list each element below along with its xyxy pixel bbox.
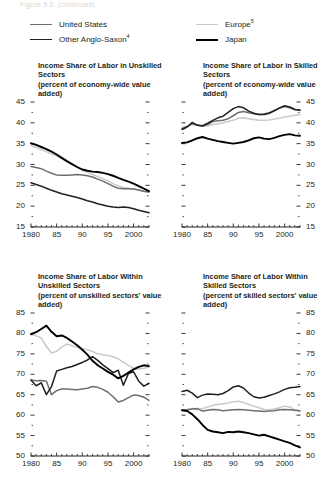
legend-swatch-other-anglo-saxon: [30, 39, 52, 40]
y-axis-tick-label: 65: [306, 391, 321, 399]
x-axis-tick-label: 1980: [18, 231, 44, 239]
y-axis-tick-label: 85: [306, 309, 321, 317]
legend-footnote-marker-5: 5: [251, 18, 254, 24]
y-axis-tick-label: 25: [10, 181, 25, 189]
x-axis-tick-label: 85: [195, 460, 221, 468]
legend-label-europe: Europe5: [225, 20, 254, 29]
panel-subtitle: (percent of economy-wide value added): [203, 80, 329, 98]
legend-swatch-europe: [196, 24, 218, 25]
legend-label-united-states: United States: [59, 20, 107, 29]
y-axis-tick-label: 80: [306, 329, 321, 337]
y-axis-tick-label: 50: [306, 452, 321, 460]
series-line-europe: [31, 146, 149, 192]
y-axis-tick-label: 55: [306, 432, 321, 440]
legend-item-europe: Europe5: [196, 20, 254, 29]
legend-swatch-japan: [196, 39, 218, 41]
x-axis-tick-label: 95: [95, 460, 121, 468]
y-axis-tick-label: 35: [10, 140, 25, 148]
series-line-japan: [182, 410, 300, 447]
x-axis-tick-label: 90: [220, 460, 246, 468]
x-axis-tick-label: 1980: [169, 231, 195, 239]
y-axis-tick-label: 80: [10, 329, 25, 337]
legend-footnote-marker-4: 4: [127, 33, 130, 39]
series-line-japan: [31, 143, 149, 191]
x-axis-tick-label: 90: [69, 460, 95, 468]
x-axis-tick-label: 95: [246, 460, 272, 468]
panel-bottom-left: Income Share of Labor Within Unskilled S…: [0, 268, 166, 483]
panel-top-right: Income Share of Labor in Skilled Sectors…: [165, 57, 331, 262]
legend-label-other-anglo-saxon: Other Anglo-Saxon4: [59, 35, 130, 44]
figure-container: Figure 5.8. (continued) United States Ot…: [0, 0, 331, 485]
x-axis-tick-label: 95: [246, 231, 272, 239]
x-axis-tick-label: 2000: [121, 460, 147, 468]
chart-legend: United States Other Anglo-Saxon4 Europe5…: [0, 18, 331, 52]
y-axis-tick-label: 40: [306, 119, 321, 127]
series-line-united-states: [182, 409, 300, 412]
figure-caption-cropped: Figure 5.8. (continued): [20, 1, 220, 10]
y-axis-tick-label: 15: [306, 223, 321, 231]
x-axis-tick-label: 85: [44, 231, 70, 239]
legend-label-japan: Japan: [225, 35, 247, 44]
y-axis-tick-label: 70: [10, 370, 25, 378]
legend-item-other-anglo-saxon: Other Anglo-Saxon4: [30, 35, 130, 44]
y-axis-tick-label: 45: [306, 98, 321, 106]
panel-title: Income Share of Labor in Skilled Sectors: [203, 61, 327, 79]
x-axis-tick-label: 1980: [18, 460, 44, 468]
y-axis-tick-label: 40: [10, 119, 25, 127]
plot-area-top-right: [182, 102, 300, 227]
legend-item-united-states: United States: [30, 20, 107, 29]
x-axis-tick-label: 90: [220, 231, 246, 239]
panel-subtitle: (percent of economy-wide value added): [38, 80, 164, 98]
y-axis-tick-label: 70: [306, 370, 321, 378]
panel-subtitle: (percent of skilled sectors' value added…: [203, 291, 329, 309]
panel-top-left: Income Share of Labor in Unskilled Secto…: [0, 57, 166, 262]
series-line-japan: [182, 134, 300, 144]
y-axis-tick-label: 45: [10, 98, 25, 106]
y-axis-tick-label: 65: [10, 391, 25, 399]
y-axis-tick-label: 75: [10, 350, 25, 358]
legend-swatch-united-states: [30, 24, 52, 25]
y-axis-tick-label: 20: [10, 202, 25, 210]
y-axis-tick-label: 30: [306, 161, 321, 169]
x-axis-tick-label: 85: [44, 460, 70, 468]
y-axis-tick-label: 55: [10, 432, 25, 440]
panel-title: Income Share of Labor Within Unskilled S…: [38, 272, 162, 290]
series-line-europe: [31, 334, 149, 369]
panel-title: Income Share of Labor Within Skilled Sec…: [203, 272, 327, 290]
panel-title: Income Share of Labor in Unskilled Secto…: [38, 61, 162, 79]
y-axis-tick-label: 85: [10, 309, 25, 317]
y-axis-tick-label: 60: [10, 411, 25, 419]
y-axis-tick-label: 20: [306, 202, 321, 210]
y-axis-tick-label: 35: [306, 140, 321, 148]
x-axis-tick-label: 1980: [169, 460, 195, 468]
series-line-other-anglo-saxon: [182, 386, 300, 398]
legend-item-japan: Japan: [196, 35, 247, 44]
y-axis-tick-label: 25: [306, 181, 321, 189]
y-axis-tick-label: 30: [10, 161, 25, 169]
panel-subtitle: (percent of unskilled sectors' value add…: [38, 291, 164, 309]
x-axis-tick-label: 2000: [272, 460, 298, 468]
x-axis-tick-label: 95: [95, 231, 121, 239]
x-axis-tick-label: 2000: [272, 231, 298, 239]
y-axis-tick-label: 75: [306, 350, 321, 358]
plot-area-top-left: [31, 102, 149, 227]
plot-area-bottom-left: [31, 313, 149, 456]
x-axis-tick-label: 2000: [121, 231, 147, 239]
series-line-japan: [31, 326, 149, 379]
y-axis-tick-label: 60: [306, 411, 321, 419]
plot-area-bottom-right: [182, 313, 300, 456]
series-line-other-anglo-saxon: [31, 183, 149, 213]
x-axis-tick-label: 90: [69, 231, 95, 239]
panel-bottom-right: Income Share of Labor Within Skilled Sec…: [165, 268, 331, 483]
x-axis-tick-label: 85: [195, 231, 221, 239]
